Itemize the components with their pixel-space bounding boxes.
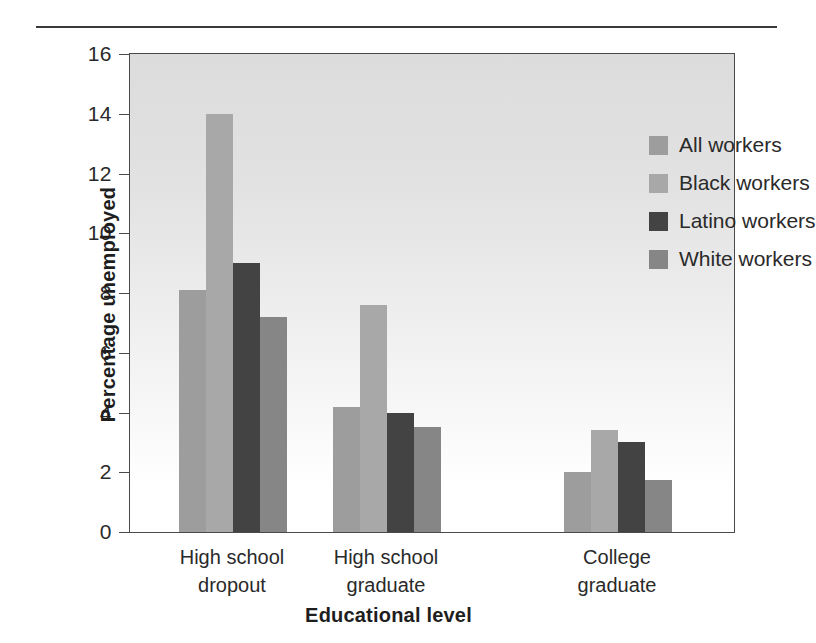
y-axis-tick [119,472,130,473]
bar [618,442,645,532]
y-axis-tick-label: 16 [88,42,112,66]
legend-label: White workers [679,247,812,271]
bar [387,413,414,533]
x-axis-title: Educational level [0,604,777,627]
legend-label: Black workers [679,171,810,195]
legend-swatch-icon [649,174,668,193]
bar [179,290,206,532]
legend-item: White workers [649,240,816,278]
y-axis-title: Percentage unemployed [97,135,120,475]
bar [360,305,387,532]
y-axis-tick [119,532,130,533]
legend-swatch-icon [649,212,668,231]
y-axis-tick-label: 0 [100,520,112,544]
y-axis-tick [119,293,130,294]
y-axis-tick [119,54,130,55]
legend-label: All workers [679,133,782,157]
x-axis-group-label: College graduate [507,543,727,599]
legend-item: All workers [649,126,816,164]
y-axis-tick [119,174,130,175]
plot-area: 1614121086420 All workersBlack workersLa… [129,53,735,533]
plot-inner: 1614121086420 [130,54,734,532]
bar [645,480,672,532]
bar [233,263,260,532]
bar [333,407,360,532]
bar [414,427,441,532]
bar [564,472,591,532]
bar [260,317,287,532]
x-axis-group-label: High school graduate [276,543,496,599]
y-axis-tick [119,413,130,414]
chart-legend: All workersBlack workersLatino workersWh… [649,126,816,278]
bar [206,114,233,532]
legend-swatch-icon [649,136,668,155]
legend-label: Latino workers [679,209,816,233]
bar [591,430,618,532]
legend-item: Black workers [649,164,816,202]
y-axis-tick [119,233,130,234]
legend-swatch-icon [649,250,668,269]
y-axis-tick [119,114,130,115]
header-rule [36,26,777,28]
y-axis-tick [119,353,130,354]
legend-item: Latino workers [649,202,816,240]
y-axis-tick-label: 14 [88,102,112,126]
